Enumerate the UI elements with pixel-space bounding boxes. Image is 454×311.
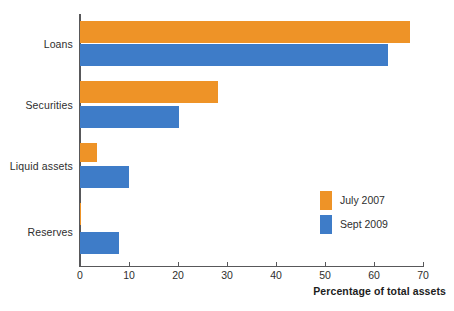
x-tick-mark-20 [178, 262, 179, 267]
legend-label-july-2007: July 2007 [340, 194, 385, 206]
bar-july-2007-liquid-assets [80, 143, 97, 162]
legend-swatch-sept-icon [320, 215, 332, 234]
category-label-liquid-assets: Liquid assets [10, 160, 73, 172]
x-tick-label-20: 20 [172, 269, 184, 281]
x-tick-label-60: 60 [368, 269, 380, 281]
bar-july-2007-reserves [80, 203, 81, 225]
x-tick-mark-50 [325, 262, 326, 267]
x-tick-mark-40 [276, 262, 277, 267]
bar-sept-2009-liquid-assets [80, 166, 129, 188]
bar-july-2007-loans [80, 21, 410, 43]
x-tick-label-30: 30 [221, 269, 233, 281]
x-tick-label-50: 50 [319, 269, 331, 281]
bar-sept-2009-reserves [80, 232, 119, 254]
category-label-reserves: Reserves [27, 226, 73, 238]
category-label-securities: Securities [25, 99, 73, 111]
legend-label-sept-2009: Sept 2009 [340, 218, 388, 230]
x-tick-label-10: 10 [123, 269, 135, 281]
x-tick-label-70: 70 [417, 269, 429, 281]
category-label-loans: Loans [44, 38, 73, 50]
bar-july-2007-securities [80, 81, 218, 103]
x-tick-mark-30 [227, 262, 228, 267]
x-tick-mark-60 [374, 262, 375, 267]
x-tick-label-0: 0 [77, 269, 83, 281]
x-axis-title: Percentage of total assets [313, 285, 446, 297]
x-tick-mark-10 [129, 262, 130, 267]
x-tick-mark-70 [423, 262, 424, 267]
bar-chart: Loans Securities Liquid assets Reserves … [0, 0, 454, 311]
x-tick-mark-0 [80, 262, 81, 267]
legend-swatch-july-icon [320, 191, 332, 210]
bar-sept-2009-loans [80, 44, 388, 66]
x-tick-label-40: 40 [270, 269, 282, 281]
bar-sept-2009-securities [80, 106, 179, 128]
